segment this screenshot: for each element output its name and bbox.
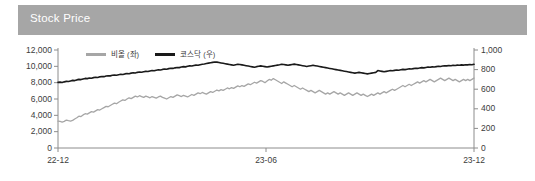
- legend-swatch-icon-series-0: [86, 53, 106, 56]
- y-axis-left-tick-label: 4,000: [8, 111, 52, 120]
- x-axis-tick-label: 22-12: [33, 156, 83, 165]
- legend-item-series-1: 코스닥 (우): [155, 51, 215, 59]
- legend-swatch-icon-series-1: [155, 53, 175, 56]
- y-axis-right-tick-label: 200: [481, 124, 525, 133]
- legend-label-series-0: 비올 (좌): [111, 51, 139, 59]
- page-title: Stock Price: [30, 12, 90, 24]
- chart-legend: 비올 (좌) 코스닥 (우): [86, 51, 215, 59]
- y-axis-right-tick-label: 800: [481, 65, 525, 74]
- y-axis-left-tick-label: 10,000: [8, 62, 52, 71]
- y-axis-left-tick-label: 2,000: [8, 127, 52, 136]
- legend-label-series-1: 코스닥 (우): [180, 51, 215, 59]
- y-axis-right-tick-label: 1,000: [481, 46, 525, 55]
- y-axis-left-tick-label: 12,000: [8, 46, 52, 55]
- legend-item-series-0: 비올 (좌): [86, 51, 139, 59]
- x-axis-tick-label: 23-06: [241, 156, 291, 165]
- y-axis-left-tick-label: 8,000: [8, 78, 52, 87]
- y-axis-left-tick-label: 6,000: [8, 95, 52, 104]
- widget-header-bar: Stock Price: [18, 5, 527, 35]
- y-axis-left-tick-label: 0: [8, 144, 52, 153]
- chart-plot-area: 비올 (좌) 코스닥 (우) 02,0004,0006,0008,00010,0…: [0, 40, 535, 181]
- y-axis-right-tick-label: 600: [481, 85, 525, 94]
- y-axis-right-tick-label: 400: [481, 104, 525, 113]
- y-axis-right-tick-label: 0: [481, 144, 525, 153]
- stock-price-chart-widget: Stock Price 비올 (좌) 코스닥 (우) 02,0004,0006,…: [0, 0, 535, 181]
- x-axis-tick-label: 23-12: [449, 156, 499, 165]
